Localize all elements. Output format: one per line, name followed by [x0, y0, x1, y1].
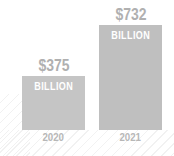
bar-column-2020: $375 BILLION [22, 57, 85, 130]
value-label-2021: $732 [115, 6, 146, 23]
bar-sublabel-2021: BILLION [111, 30, 150, 41]
bar-2020: BILLION [22, 76, 85, 130]
bar-column-2021: $732 BILLION [99, 6, 162, 130]
x-tick-2021-text: 2021 [120, 132, 142, 143]
bar-chart: $375 BILLION $732 BILLION 2020 2021 [0, 0, 174, 156]
bar-2021: BILLION [99, 25, 162, 130]
bar-sublabel-2020: BILLION [34, 81, 73, 92]
x-tick-2021: 2021 [99, 132, 162, 143]
x-tick-2020: 2020 [22, 132, 85, 143]
x-tick-2020-text: 2020 [43, 132, 65, 143]
value-label-2020: $375 [38, 57, 69, 74]
